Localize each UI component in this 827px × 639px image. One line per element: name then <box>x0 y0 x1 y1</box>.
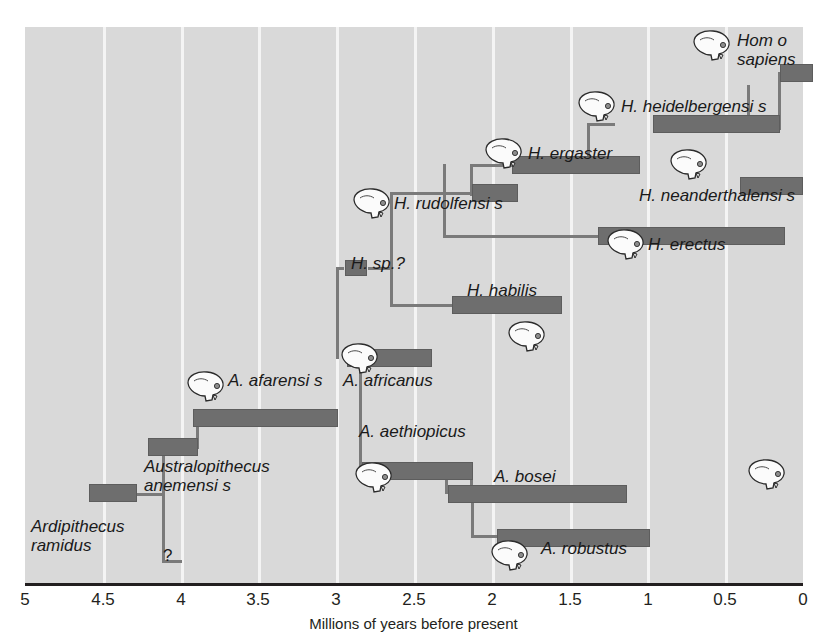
label-h-neanderthalensis-suffix: s <box>786 186 795 205</box>
x-tick-5: 5 <box>0 590 55 610</box>
label-a-bosei: A. bosei <box>494 467 555 486</box>
label-australopithecus-anemensis-line2: anemensi <box>144 476 218 495</box>
label-h-erectus: H. erectus <box>648 235 725 254</box>
x-tick-3: 3 <box>306 590 366 610</box>
gridline-3.5 <box>258 27 261 583</box>
skull-icon-h-ergaster <box>482 137 526 171</box>
hominin-phylogeny-chart: Hom o sapiens H. heidelbergensi s H. erg… <box>0 0 827 639</box>
label-h-habilis: H. habilis <box>467 281 537 300</box>
label-h-ergaster: H. ergaster <box>528 144 612 163</box>
label-h-sp-unknown: H. sp.? <box>351 254 405 273</box>
x-tick-0: 0 <box>773 590 827 610</box>
label-h-neanderthalensis-text: H. neanderthalensi <box>639 186 782 205</box>
label-a-aethiopicus: A. aethiopicus <box>359 422 466 441</box>
x-tick-4: 4 <box>151 590 211 610</box>
label-ardipithecus-ramidus: Ardipithecus ramidus <box>31 518 125 555</box>
label-australopithecus-anemensis-suffix: s <box>222 476 231 495</box>
x-tick-2.5: 2.5 <box>384 590 444 610</box>
x-tick-2: 2 <box>462 590 522 610</box>
gridline-4 <box>181 27 184 583</box>
label-a-afarensis-text: A. afarensi <box>228 371 309 390</box>
label-australopithecus-anemensis-line1: Australopithecus <box>144 457 270 476</box>
label-homo-sapiens-line1: Hom o <box>737 31 787 50</box>
bar-australopithecus-anemensis <box>148 438 198 456</box>
connector-to-robustus <box>471 535 497 538</box>
skull-icon-h-heidelbergensis <box>575 90 619 124</box>
x-tick-1.5: 1.5 <box>540 590 600 610</box>
skull-icon-h-habilis <box>505 320 549 354</box>
skull-icon-h-rudolfensis <box>350 187 394 221</box>
label-h-rudolfensis: H. rudolfensi s <box>394 194 503 213</box>
x-tick-4.5: 4.5 <box>73 590 133 610</box>
skull-icon-h-neanderthalensis <box>667 148 711 182</box>
connector-to-habilis <box>390 304 452 307</box>
skull-icon-a-robustus <box>488 539 532 573</box>
label-australopithecus-anemensis: Australopithecus anemensi s <box>144 458 270 495</box>
label-a-afarensis-suffix: s <box>314 371 323 390</box>
skull-icon-homo-sapiens <box>690 29 734 63</box>
skull-icon-h-erectus <box>604 228 648 262</box>
connector-to-erectus <box>443 235 600 238</box>
label-a-robustus: A. robustus <box>541 539 627 558</box>
connector-africanus-hsp <box>336 267 344 270</box>
skull-icon-a-aethiopicus <box>352 461 396 495</box>
x-tick-1: 1 <box>618 590 678 610</box>
label-ardipithecus-ramidus-line2: ramidus <box>31 536 91 555</box>
label-ardipithecus-ramidus-line1: Ardipithecus <box>31 517 125 536</box>
label-h-heidelbergensis-text: H. heidelbergensi <box>621 97 753 116</box>
bar-a-bosei <box>448 485 627 503</box>
label-h-heidelbergensis: H. heidelbergensi s <box>621 97 767 116</box>
label-h-heidelbergensis-suffix: s <box>758 97 767 116</box>
bar-ardipithecus-ramidus <box>89 484 137 502</box>
bar-a-afarensis <box>193 409 338 427</box>
label-h-rudolfensis-suffix: s <box>494 194 503 213</box>
label-a-afarensis: A. afarensi s <box>228 371 323 390</box>
bar-h-heidelbergensis <box>653 115 780 133</box>
label-a-africanus: A. africanus <box>343 371 433 390</box>
skull-icon-a-bosei <box>745 458 789 492</box>
label-homo-sapiens-line2: sapiens <box>737 50 796 69</box>
label-homo-sapiens: Hom o sapiens <box>737 32 796 69</box>
label-h-neanderthalensis: H. neanderthalensi s <box>639 186 795 205</box>
x-tick-3.5: 3.5 <box>228 590 288 610</box>
x-axis-line <box>25 583 803 586</box>
x-tick-0.5: 0.5 <box>695 590 755 610</box>
label-h-rudolfensis-text: H. rudolfensi <box>394 194 489 213</box>
skull-icon-a-afarensis <box>184 370 228 404</box>
x-axis-title: Millions of years before present <box>0 615 827 632</box>
label-unknown-branch: ? <box>163 546 172 566</box>
